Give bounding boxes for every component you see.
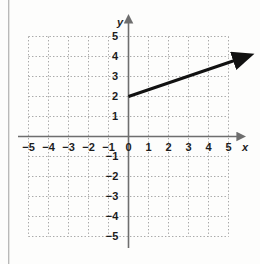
- x-tick-label-neg2: −2: [78, 141, 99, 153]
- y-tick-label-neg2: −2: [102, 170, 122, 182]
- y-tick-label-neg3: −3: [102, 190, 122, 202]
- x-tick-label-3: 3: [178, 141, 199, 153]
- x-tick-label-neg5: −5: [18, 141, 39, 153]
- y-axis-label: y: [117, 16, 123, 28]
- y-tick-label-3: 3: [108, 70, 122, 82]
- y-tick-label-neg5: −5: [102, 230, 122, 242]
- plot-canvas: [0, 0, 260, 264]
- plotted-ray: [129, 60, 237, 97]
- y-tick-label-neg1: −1: [102, 150, 122, 162]
- x-tick-label-2: 2: [158, 141, 179, 153]
- x-tick-label-5: 5: [218, 141, 239, 153]
- y-tick-label-2: 2: [108, 90, 122, 102]
- x-tick-label-neg4: −4: [38, 141, 59, 153]
- y-tick-label-neg4: −4: [102, 210, 122, 222]
- coordinate-plane-figure: −5 −4 −3 −2 −1 0 1 2 3 4 5 5 4 3 2 1 −1 …: [0, 0, 260, 264]
- y-tick-label-5: 5: [108, 30, 122, 42]
- x-tick-label-1: 1: [138, 141, 159, 153]
- x-tick-label-4: 4: [198, 141, 219, 153]
- y-tick-label-4: 4: [108, 50, 122, 62]
- x-tick-label-neg3: −3: [58, 141, 79, 153]
- x-axis-label: x: [242, 141, 248, 153]
- y-tick-label-1: 1: [108, 110, 122, 122]
